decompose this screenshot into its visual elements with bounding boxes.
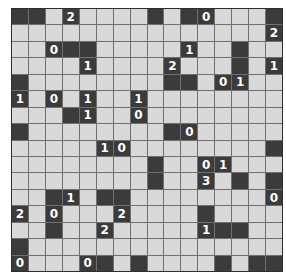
empty-cell[interactable]	[131, 206, 147, 221]
empty-cell[interactable]	[131, 58, 147, 73]
empty-cell[interactable]	[181, 206, 197, 221]
empty-cell[interactable]	[80, 124, 96, 139]
empty-cell[interactable]	[63, 124, 79, 139]
empty-cell[interactable]	[12, 42, 28, 57]
empty-cell[interactable]	[80, 190, 96, 205]
empty-cell[interactable]	[198, 42, 214, 57]
empty-cell[interactable]	[198, 239, 214, 254]
empty-cell[interactable]	[164, 173, 180, 188]
empty-cell[interactable]	[198, 124, 214, 139]
empty-cell[interactable]	[148, 91, 164, 106]
empty-cell[interactable]	[80, 157, 96, 172]
empty-cell[interactable]	[63, 223, 79, 238]
empty-cell[interactable]	[63, 173, 79, 188]
empty-cell[interactable]	[181, 25, 197, 40]
empty-cell[interactable]	[46, 173, 62, 188]
empty-cell[interactable]	[249, 141, 265, 156]
empty-cell[interactable]	[232, 141, 248, 156]
empty-cell[interactable]	[249, 108, 265, 123]
empty-cell[interactable]	[12, 58, 28, 73]
empty-cell[interactable]	[29, 75, 45, 90]
empty-cell[interactable]	[249, 9, 265, 24]
empty-cell[interactable]	[249, 157, 265, 172]
empty-cell[interactable]	[131, 25, 147, 40]
empty-cell[interactable]	[80, 223, 96, 238]
empty-cell[interactable]	[164, 25, 180, 40]
empty-cell[interactable]	[249, 58, 265, 73]
empty-cell[interactable]	[215, 124, 231, 139]
empty-cell[interactable]	[12, 223, 28, 238]
empty-cell[interactable]	[80, 239, 96, 254]
empty-cell[interactable]	[215, 173, 231, 188]
empty-cell[interactable]	[266, 42, 282, 57]
empty-cell[interactable]	[164, 256, 180, 271]
empty-cell[interactable]	[114, 124, 130, 139]
empty-cell[interactable]	[114, 25, 130, 40]
empty-cell[interactable]	[131, 75, 147, 90]
empty-cell[interactable]	[164, 141, 180, 156]
empty-cell[interactable]	[29, 190, 45, 205]
empty-cell[interactable]	[215, 239, 231, 254]
empty-cell[interactable]	[131, 42, 147, 57]
empty-cell[interactable]	[80, 75, 96, 90]
empty-cell[interactable]	[46, 157, 62, 172]
empty-cell[interactable]	[148, 141, 164, 156]
empty-cell[interactable]	[131, 190, 147, 205]
empty-cell[interactable]	[249, 124, 265, 139]
empty-cell[interactable]	[29, 58, 45, 73]
empty-cell[interactable]	[266, 223, 282, 238]
empty-cell[interactable]	[232, 190, 248, 205]
empty-cell[interactable]	[249, 42, 265, 57]
empty-cell[interactable]	[164, 223, 180, 238]
empty-cell[interactable]	[80, 173, 96, 188]
empty-cell[interactable]	[232, 108, 248, 123]
empty-cell[interactable]	[148, 239, 164, 254]
empty-cell[interactable]	[249, 173, 265, 188]
empty-cell[interactable]	[215, 25, 231, 40]
empty-cell[interactable]	[114, 256, 130, 271]
empty-cell[interactable]	[215, 91, 231, 106]
empty-cell[interactable]	[46, 75, 62, 90]
empty-cell[interactable]	[249, 91, 265, 106]
empty-cell[interactable]	[29, 157, 45, 172]
empty-cell[interactable]	[97, 75, 113, 90]
empty-cell[interactable]	[97, 9, 113, 24]
empty-cell[interactable]	[232, 25, 248, 40]
empty-cell[interactable]	[249, 223, 265, 238]
empty-cell[interactable]	[12, 108, 28, 123]
empty-cell[interactable]	[181, 173, 197, 188]
empty-cell[interactable]	[29, 173, 45, 188]
empty-cell[interactable]	[249, 25, 265, 40]
empty-cell[interactable]	[266, 239, 282, 254]
empty-cell[interactable]	[215, 58, 231, 73]
empty-cell[interactable]	[131, 124, 147, 139]
empty-cell[interactable]	[249, 239, 265, 254]
empty-cell[interactable]	[232, 91, 248, 106]
empty-cell[interactable]	[46, 141, 62, 156]
empty-cell[interactable]	[198, 25, 214, 40]
empty-cell[interactable]	[29, 239, 45, 254]
empty-cell[interactable]	[46, 25, 62, 40]
empty-cell[interactable]	[114, 223, 130, 238]
empty-cell[interactable]	[198, 190, 214, 205]
empty-cell[interactable]	[63, 256, 79, 271]
empty-cell[interactable]	[148, 256, 164, 271]
empty-cell[interactable]	[249, 190, 265, 205]
empty-cell[interactable]	[181, 157, 197, 172]
empty-cell[interactable]	[232, 206, 248, 221]
empty-cell[interactable]	[63, 239, 79, 254]
empty-cell[interactable]	[63, 141, 79, 156]
empty-cell[interactable]	[266, 108, 282, 123]
empty-cell[interactable]	[46, 9, 62, 24]
empty-cell[interactable]	[249, 75, 265, 90]
empty-cell[interactable]	[29, 206, 45, 221]
empty-cell[interactable]	[12, 25, 28, 40]
empty-cell[interactable]	[181, 256, 197, 271]
empty-cell[interactable]	[215, 9, 231, 24]
empty-cell[interactable]	[215, 42, 231, 57]
empty-cell[interactable]	[114, 91, 130, 106]
empty-cell[interactable]	[97, 58, 113, 73]
empty-cell[interactable]	[131, 239, 147, 254]
empty-cell[interactable]	[266, 124, 282, 139]
empty-cell[interactable]	[131, 173, 147, 188]
